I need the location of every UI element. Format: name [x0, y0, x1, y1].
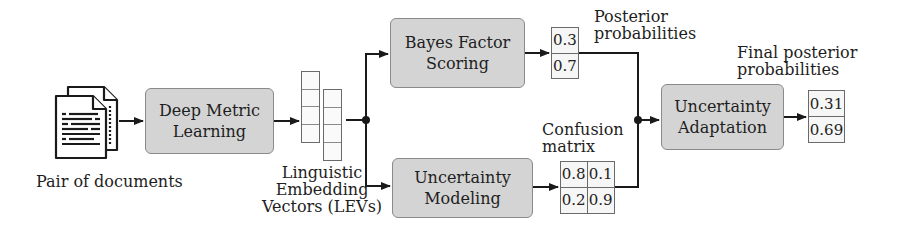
- node-label: Modeling: [424, 189, 501, 208]
- node-label: Scoring: [426, 54, 489, 73]
- input-label: Pair of documents: [36, 173, 183, 191]
- final-value: 0.31: [809, 91, 844, 116]
- node-label: Adaptation: [678, 118, 767, 137]
- pipeline-diagram: Pair of documents Deep MetricLearning Li…: [0, 0, 904, 231]
- embedding-vector-1: [301, 71, 320, 143]
- deep-metric-learning-node: Deep MetricLearning: [145, 88, 274, 154]
- posterior-label-line: probabilities: [594, 24, 696, 43]
- node-label: Uncertainty: [414, 168, 511, 187]
- uncertainty-modeling-node: UncertaintyModeling: [392, 158, 533, 218]
- confusion-label: Confusion matrix: [542, 121, 624, 155]
- confusion-cell: 0.9: [588, 188, 615, 214]
- merge-node-icon: [634, 116, 642, 124]
- confusion-matrix: 0.8 0.1 0.2 0.9: [560, 161, 615, 214]
- confusion-label-line: matrix: [542, 137, 595, 156]
- confusion-cell: 0.8: [561, 162, 588, 188]
- levs-label: Linguistic Embedding Vectors (LEVs): [262, 164, 382, 215]
- final-value: 0.69: [809, 116, 844, 142]
- uncertainty-adaptation-node: UncertaintyAdaptation: [661, 84, 784, 150]
- final-posterior-vector: 0.31 0.69: [808, 90, 845, 143]
- node-label: Uncertainty: [674, 97, 771, 116]
- posterior-value: 0.3: [552, 28, 578, 53]
- posterior-vector: 0.3 0.7: [551, 27, 579, 79]
- confusion-cell: 0.2: [561, 188, 588, 214]
- confusion-cell: 0.1: [588, 162, 615, 188]
- final-label-line: probabilities: [737, 60, 839, 79]
- levs-line: Vectors (LEVs): [262, 197, 382, 216]
- posterior-label: Posterior probabilities: [594, 8, 696, 42]
- documents-icon: [52, 84, 122, 162]
- bayes-factor-scoring-node: Bayes FactorScoring: [390, 18, 525, 88]
- node-label: Learning: [173, 122, 246, 141]
- final-label: Final posterior probabilities: [737, 44, 857, 78]
- posterior-value: 0.7: [552, 53, 578, 79]
- embedding-vector-2: [323, 89, 342, 161]
- node-label: Bayes Factor: [405, 33, 510, 52]
- split-node-icon: [362, 116, 370, 124]
- node-label: Deep Metric: [159, 101, 260, 120]
